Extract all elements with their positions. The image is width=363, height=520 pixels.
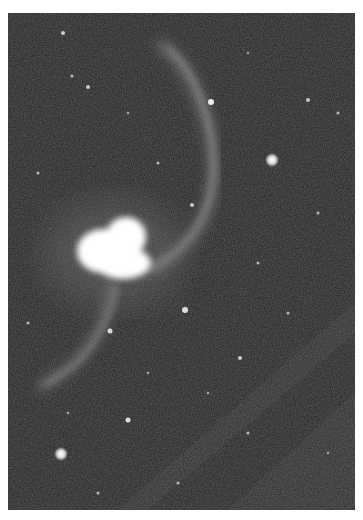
galaxy-image: [8, 13, 355, 510]
astronomical-photo: [8, 13, 355, 510]
